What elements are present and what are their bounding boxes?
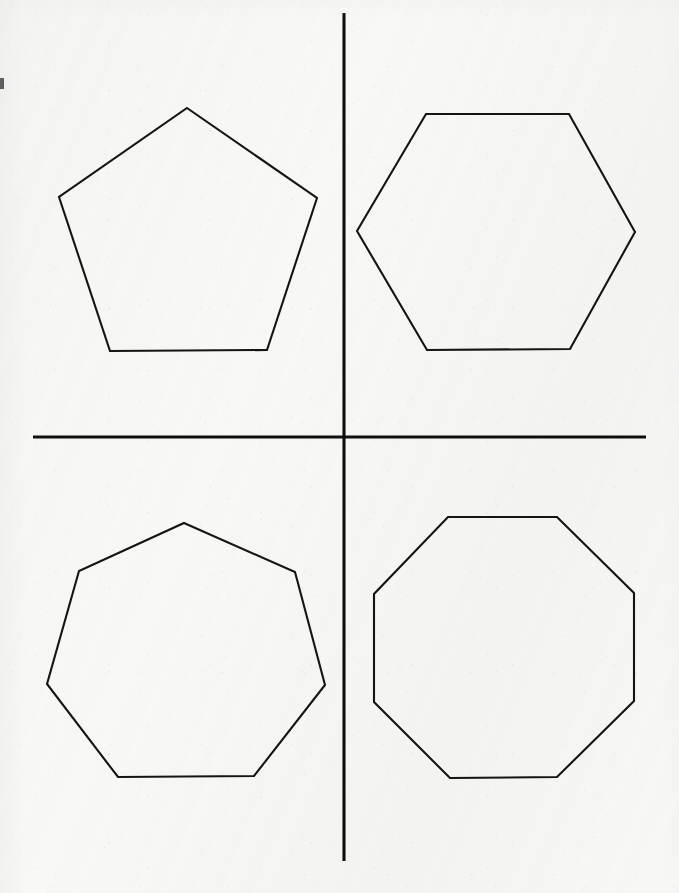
- heptagon-shape: [47, 523, 325, 777]
- polygon-figure: [0, 0, 679, 893]
- edge-smudge-icon: [0, 78, 4, 89]
- polygon-group: [47, 108, 635, 778]
- hexagon-shape: [357, 114, 635, 350]
- octagon-shape: [374, 517, 634, 778]
- scan-artifact-group: [0, 78, 4, 89]
- worksheet-page: [0, 0, 679, 893]
- pentagon-shape: [59, 108, 317, 351]
- axis-group: [33, 13, 646, 861]
